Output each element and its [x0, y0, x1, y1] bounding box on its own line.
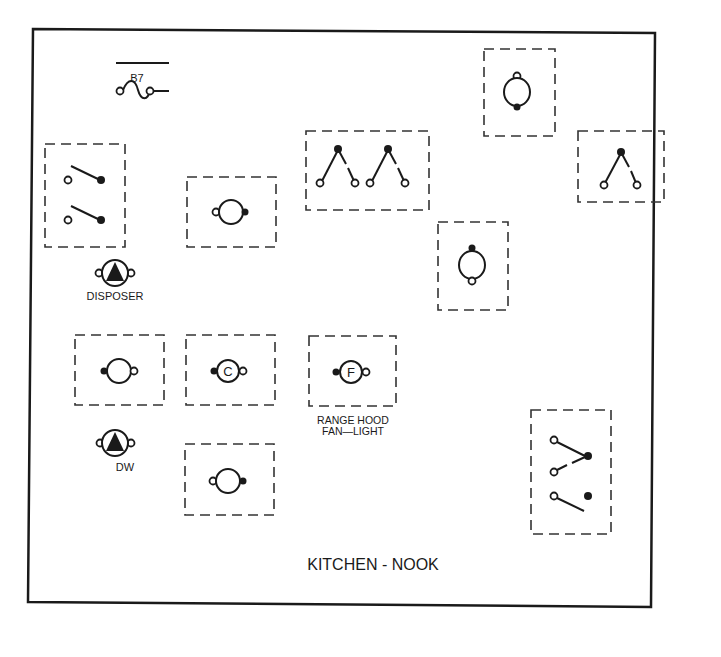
disposer-motor-icon	[96, 260, 135, 286]
fan-symbol: F	[347, 365, 355, 380]
circuit-label: B7	[130, 72, 143, 84]
dishwasher-motor-icon	[97, 430, 135, 456]
ceiling-light-box-top	[484, 49, 555, 136]
three-way-switch-box	[578, 131, 664, 202]
room-border	[28, 29, 655, 607]
kitchen-nook-wiring-diagram: .ln { stroke: #1a1a1a; stroke-width: 2; …	[0, 0, 721, 657]
light-fixture-box-bottom	[185, 444, 274, 515]
disposer-label: DISPOSER	[87, 290, 144, 302]
ceiling-fan-symbol: C	[223, 364, 232, 379]
dual-three-way-switch-box	[306, 131, 429, 210]
room-title: KITCHEN - NOOK	[307, 556, 439, 573]
dishwasher-label: DW	[116, 461, 135, 473]
light-fixture-box	[187, 177, 276, 247]
multi-switch-box	[531, 410, 611, 534]
range-hood-label-line2: FAN—LIGHT	[322, 425, 384, 437]
double-switch-box	[45, 144, 125, 247]
ceiling-light-box-middle	[438, 222, 508, 310]
light-fixture-box-lower-left	[75, 335, 164, 405]
